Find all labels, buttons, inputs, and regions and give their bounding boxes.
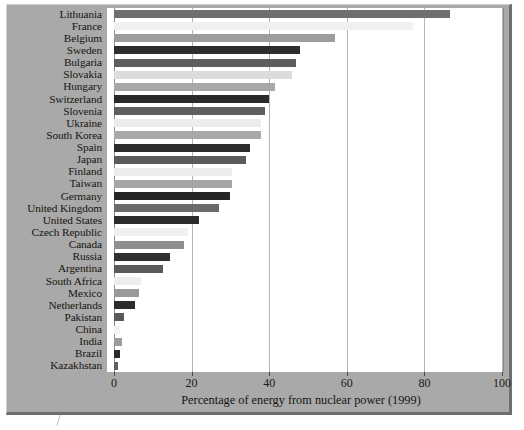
scan-artifact-mark (57, 415, 61, 426)
category-label: Canada (69, 238, 102, 251)
bar (114, 192, 230, 200)
category-label: Switzerland (49, 93, 102, 106)
figure-frame: LithuaniaFranceBelgiumSwedenBulgariaSlov… (6, 4, 512, 415)
bar (114, 216, 199, 224)
bar (114, 59, 296, 67)
plot-area (107, 8, 504, 372)
category-label: Bulgaria (64, 56, 102, 69)
category-label: United States (43, 214, 102, 227)
gridline-80 (424, 8, 425, 372)
bar (114, 241, 184, 249)
category-label: Germany (61, 190, 102, 203)
bar (114, 131, 261, 139)
bar (114, 265, 163, 273)
axis-title-text: Percentage of energy from nuclear power … (181, 393, 420, 408)
bar (114, 95, 269, 103)
category-label: Sweden (67, 44, 102, 57)
bar (114, 144, 250, 152)
bar (114, 204, 219, 212)
bar (114, 71, 292, 79)
category-label: Mexico (68, 287, 102, 300)
tick-label-100: 100 (493, 376, 511, 391)
category-label: Finland (68, 165, 102, 178)
category-label: Argentina (58, 262, 102, 275)
gridline-100 (502, 8, 503, 372)
category-label: Kazakhstan (50, 359, 102, 372)
bar (114, 34, 335, 42)
category-label: Slovakia (63, 68, 102, 81)
category-label: Slovenia (63, 105, 102, 118)
category-label: Brazil (75, 347, 102, 360)
bar (114, 350, 120, 358)
tick-label-60: 60 (341, 376, 353, 391)
category-label: Taiwan (70, 177, 103, 190)
bar (114, 289, 139, 297)
category-label: Belgium (64, 32, 102, 45)
bar-chart: LithuaniaFranceBelgiumSwedenBulgariaSlov… (7, 8, 509, 372)
category-label: South Africa (46, 275, 102, 288)
category-label: Spain (77, 141, 102, 154)
bar (114, 338, 122, 346)
tick-label-20: 20 (186, 376, 198, 391)
bar (114, 180, 232, 188)
category-label: France (72, 20, 102, 33)
bar (114, 168, 232, 176)
tick-label-40: 40 (263, 376, 275, 391)
category-label: United Kingdom (27, 202, 102, 215)
bar (114, 362, 118, 370)
category-label: China (76, 323, 103, 336)
category-label: Hungary (63, 80, 102, 93)
category-label: South Korea (46, 129, 102, 142)
category-label: Pakistan (65, 311, 102, 324)
bar (114, 107, 265, 115)
tick-label-80: 80 (418, 376, 430, 391)
axis-title: Percentage of energy from nuclear power … (7, 393, 509, 408)
bar (114, 253, 170, 261)
category-label: India (79, 335, 102, 348)
gridline-60 (347, 8, 348, 372)
tick-label-0: 0 (111, 376, 117, 391)
figure-inner-panel: LithuaniaFranceBelgiumSwedenBulgariaSlov… (7, 5, 509, 412)
bar (114, 326, 120, 334)
bar (114, 10, 450, 18)
bar (114, 277, 141, 285)
bar (114, 301, 135, 309)
bar (114, 46, 300, 54)
bar (114, 119, 261, 127)
value-axis: 020406080100 Percentage of energy from n… (7, 372, 509, 414)
bar (114, 228, 188, 236)
category-label: Lithuania (60, 8, 102, 21)
bar (114, 83, 275, 91)
category-label: Japan (77, 153, 102, 166)
bar (114, 313, 124, 321)
bar (114, 22, 413, 30)
category-label: Ukraine (66, 117, 102, 130)
category-axis-labels: LithuaniaFranceBelgiumSwedenBulgariaSlov… (7, 8, 106, 372)
bar (114, 156, 246, 164)
category-label: Russia (72, 250, 102, 263)
category-label: Netherlands (49, 299, 102, 312)
category-label: Czech Republic (32, 226, 102, 239)
